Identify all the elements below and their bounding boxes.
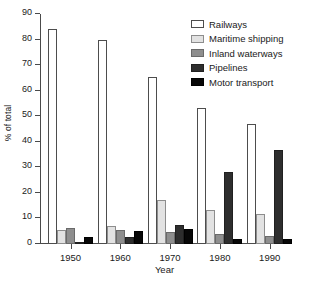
bar-maritime-shipping-1960 bbox=[107, 226, 116, 244]
y-axis-tick-label: 80 bbox=[22, 33, 32, 43]
x-axis-tick bbox=[270, 244, 271, 249]
legend-item-inland-waterways[interactable]: Inland waterways bbox=[191, 46, 283, 61]
bar-railways-1970 bbox=[148, 77, 157, 244]
bar-motor-transport-1950 bbox=[84, 237, 93, 244]
bar-motor-transport-1960 bbox=[134, 231, 143, 244]
bar-motor-transport-1980 bbox=[233, 239, 242, 244]
bar-inland-waterways-1990 bbox=[265, 236, 274, 244]
legend-swatch-icon bbox=[191, 49, 204, 57]
y-axis-tick: 0 bbox=[35, 243, 40, 244]
x-axis-label: Year bbox=[40, 264, 289, 275]
y-axis-line bbox=[40, 14, 41, 244]
y-axis-tick-label: 10 bbox=[22, 211, 32, 221]
y-axis-tick: 90 bbox=[35, 13, 40, 14]
legend-item-pipelines[interactable]: Pipelines bbox=[191, 61, 283, 76]
x-axis-tick-label-1970: 1970 bbox=[147, 252, 193, 263]
bar-inland-waterways-1950 bbox=[66, 228, 75, 244]
y-axis-tick-label: 30 bbox=[22, 160, 32, 170]
x-axis-tick bbox=[220, 244, 221, 249]
x-axis-tick-label-1950: 1950 bbox=[48, 252, 94, 263]
bar-group-bars bbox=[98, 14, 143, 244]
bar-pipelines-1950 bbox=[75, 242, 84, 244]
legend-swatch-icon bbox=[191, 64, 204, 72]
bar-group-bars bbox=[48, 14, 93, 244]
x-axis-tick bbox=[120, 244, 121, 249]
y-axis-tick: 40 bbox=[35, 141, 40, 142]
legend-swatch-icon bbox=[191, 35, 204, 43]
bar-pipelines-1970 bbox=[175, 225, 184, 244]
x-axis-tick-label-1960: 1960 bbox=[97, 252, 143, 263]
y-axis-tick: 20 bbox=[35, 192, 40, 193]
bar-maritime-shipping-1990 bbox=[256, 214, 265, 244]
bar-motor-transport-1990 bbox=[283, 239, 292, 244]
bar-railways-1950 bbox=[48, 29, 57, 244]
bar-pipelines-1960 bbox=[125, 237, 134, 244]
bar-pipelines-1980 bbox=[224, 172, 233, 244]
legend-label: Motor transport bbox=[209, 77, 273, 88]
bar-inland-waterways-1970 bbox=[166, 232, 175, 244]
y-axis-tick-label: 60 bbox=[22, 84, 32, 94]
bar-pipelines-1990 bbox=[274, 150, 283, 244]
y-axis-tick-label: 70 bbox=[22, 58, 32, 68]
legend-label: Inland waterways bbox=[209, 48, 282, 59]
y-axis-tick: 70 bbox=[35, 64, 40, 65]
legend-label: Maritime shipping bbox=[209, 33, 283, 44]
y-axis-tick: 80 bbox=[35, 39, 40, 40]
bar-maritime-shipping-1970 bbox=[157, 200, 166, 244]
x-axis-tick bbox=[170, 244, 171, 249]
y-axis-tick-label: 40 bbox=[22, 135, 32, 145]
legend-item-maritime-shipping[interactable]: Maritime shipping bbox=[191, 32, 283, 47]
bar-railways-1990 bbox=[247, 124, 256, 244]
bar-maritime-shipping-1980 bbox=[206, 210, 215, 244]
y-axis-label: % of total bbox=[3, 88, 13, 158]
bar-maritime-shipping-1950 bbox=[57, 230, 66, 244]
y-axis-tick-label: 90 bbox=[22, 7, 32, 17]
x-axis-tick-label-1990: 1990 bbox=[247, 252, 293, 263]
legend: RailwaysMaritime shippingInland waterway… bbox=[191, 17, 283, 90]
bar-railways-1980 bbox=[197, 108, 206, 244]
y-axis-tick: 50 bbox=[35, 115, 40, 116]
legend-swatch-icon bbox=[191, 78, 204, 86]
x-axis-tick-label-1980: 1980 bbox=[197, 252, 243, 263]
bar-chart: % of total 0102030405060708090 195019601… bbox=[0, 0, 310, 288]
y-axis-tick: 30 bbox=[35, 166, 40, 167]
bar-inland-waterways-1960 bbox=[116, 230, 125, 244]
y-axis-tick-label: 0 bbox=[27, 237, 32, 247]
legend-item-motor-transport[interactable]: Motor transport bbox=[191, 75, 283, 90]
y-axis-tick-label: 20 bbox=[22, 186, 32, 196]
y-axis-tick-label: 50 bbox=[22, 109, 32, 119]
legend-label: Pipelines bbox=[209, 62, 248, 73]
legend-item-railways[interactable]: Railways bbox=[191, 17, 283, 32]
x-axis-tick bbox=[71, 244, 72, 249]
y-axis-tick: 10 bbox=[35, 217, 40, 218]
legend-swatch-icon bbox=[191, 20, 204, 28]
legend-label: Railways bbox=[209, 19, 247, 30]
bar-motor-transport-1970 bbox=[184, 229, 193, 244]
bar-railways-1960 bbox=[98, 40, 107, 244]
bar-inland-waterways-1980 bbox=[215, 234, 224, 244]
y-axis-tick: 60 bbox=[35, 90, 40, 91]
bar-group-bars bbox=[148, 14, 193, 244]
